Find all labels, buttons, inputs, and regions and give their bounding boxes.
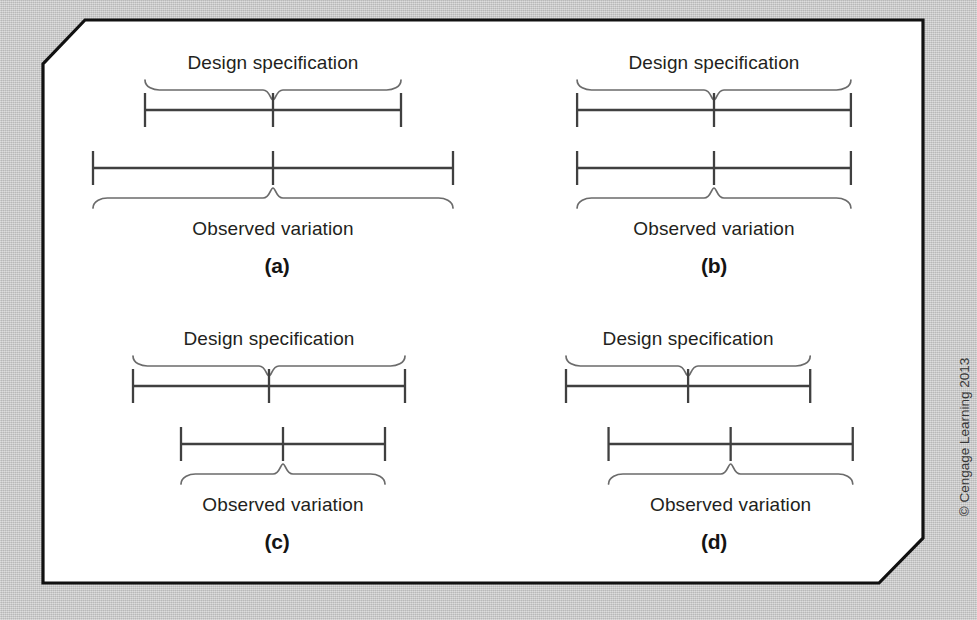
panel-a-observed-brace [93, 188, 453, 208]
panel-a-observed-label: Observed variation [192, 218, 353, 240]
panel-d-caption: (d) [701, 530, 727, 554]
panel-c-observed-label: Observed variation [202, 494, 363, 516]
panel-c: Design specificationObserved variation(c… [51, 308, 503, 580]
panel-b-caption: (b) [701, 254, 727, 278]
figure-card-inner: Design specificationObserved variation(a… [41, 18, 925, 585]
panel-a-caption: (a) [264, 254, 289, 278]
copyright-notice: © Cengage Learning 2013 [953, 272, 975, 602]
panel-b-observed-brace [577, 188, 851, 208]
figure-card: Design specificationObserved variation(a… [41, 18, 925, 585]
figure-background: Design specificationObserved variation(a… [0, 0, 977, 620]
panel-c-spec-label: Design specification [184, 328, 355, 350]
panel-c-observed-brace [181, 464, 385, 484]
panel-d: Design specificationObserved variation(d… [503, 308, 925, 580]
panel-d-observed-label: Observed variation [650, 494, 811, 516]
panel-d-spec-label: Design specification [603, 328, 774, 350]
copyright-text: © Cengage Learning 2013 [957, 358, 972, 517]
panel-c-caption: (c) [264, 530, 289, 554]
panel-d-observed-brace [609, 464, 853, 484]
panel-b: Design specificationObserved variation(b… [503, 32, 925, 300]
panel-b-observed-label: Observed variation [633, 218, 794, 240]
panel-b-spec-label: Design specification [629, 52, 800, 74]
panel-a-spec-label: Design specification [188, 52, 359, 74]
panel-a: Design specificationObserved variation(a… [51, 32, 503, 300]
